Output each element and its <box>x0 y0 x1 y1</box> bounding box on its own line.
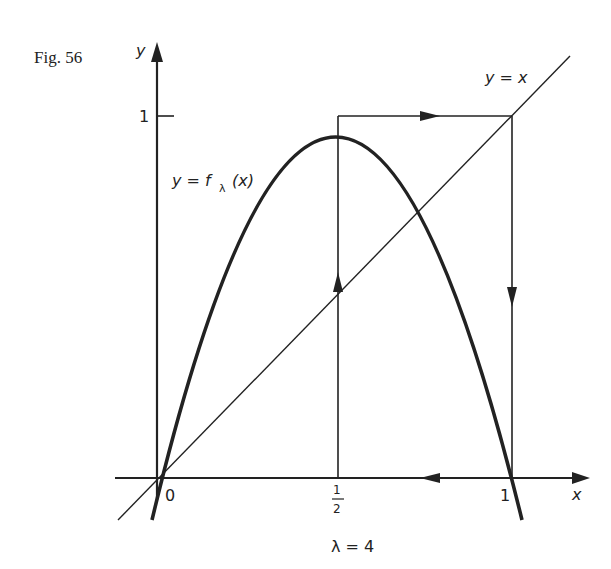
x-axis-arrow-icon <box>572 472 590 484</box>
cobweb-diagram: y 1 0 1 2 1 x y = x y = f λ (x) λ = 4 <box>0 0 611 569</box>
diagonal-line <box>118 56 570 520</box>
y-axis-arrow-icon <box>151 42 163 62</box>
svg-text:y = f: y = f <box>171 171 213 190</box>
x-tick-label-1: 1 <box>500 486 510 505</box>
svg-text:λ: λ <box>219 182 226 195</box>
y-axis <box>151 42 174 500</box>
y-tick-label-1: 1 <box>139 107 149 126</box>
svg-text:(x): (x) <box>232 171 254 190</box>
caption-lambda: λ = 4 <box>331 537 374 556</box>
x-axis <box>115 472 590 484</box>
down-arrow-icon <box>507 287 517 307</box>
svg-text:1: 1 <box>333 483 341 497</box>
left-arrow-icon <box>420 473 440 483</box>
up-arrow-icon <box>333 272 343 292</box>
cobweb-orbit <box>333 111 517 483</box>
parabola-curve <box>152 137 522 520</box>
svg-text:2: 2 <box>333 502 341 516</box>
x-tick-label-half: 1 2 <box>332 483 344 516</box>
x-axis-label: x <box>571 485 582 504</box>
parabola-label: y = f λ (x) <box>171 171 254 195</box>
y-axis-label: y <box>135 41 146 60</box>
diagonal-label: y = x <box>484 68 528 87</box>
x-tick-label-0: 0 <box>165 486 175 505</box>
right-arrow-icon <box>420 111 440 121</box>
